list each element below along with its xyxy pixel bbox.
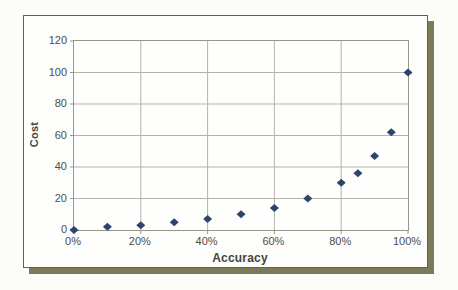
data-point-marker bbox=[237, 210, 246, 218]
y-tick-label: 120 bbox=[24, 33, 67, 47]
y-tick-label: 40 bbox=[24, 159, 67, 173]
data-point-marker bbox=[103, 223, 112, 231]
data-point-marker bbox=[370, 152, 379, 160]
y-tick-label: 20 bbox=[24, 191, 67, 205]
x-tick-label: 40% bbox=[177, 234, 237, 248]
x-axis-title: Accuracy bbox=[73, 251, 407, 265]
x-tick-label: 80% bbox=[310, 234, 370, 248]
data-point-marker bbox=[203, 215, 212, 223]
scatter-plot bbox=[74, 41, 408, 230]
x-tick-label: 100% bbox=[377, 234, 437, 248]
chart-card: Cost 020406080100120 0%20%40%60%80%100% … bbox=[23, 15, 428, 268]
data-point-marker bbox=[70, 226, 79, 234]
x-tick-label: 0% bbox=[43, 234, 103, 248]
data-point-marker bbox=[404, 69, 413, 77]
data-point-marker bbox=[353, 169, 362, 177]
data-point-marker bbox=[337, 179, 346, 187]
y-tick-label: 80 bbox=[24, 96, 67, 110]
x-tick-label: 20% bbox=[110, 234, 170, 248]
data-point-marker bbox=[136, 221, 145, 229]
plot-area bbox=[73, 40, 409, 231]
data-point-marker bbox=[270, 204, 279, 212]
x-tick-label: 60% bbox=[243, 234, 303, 248]
data-point-marker bbox=[303, 195, 312, 203]
y-tick-label: 60 bbox=[24, 128, 67, 142]
y-tick-label: 100 bbox=[24, 65, 67, 79]
data-point-marker bbox=[170, 218, 179, 226]
